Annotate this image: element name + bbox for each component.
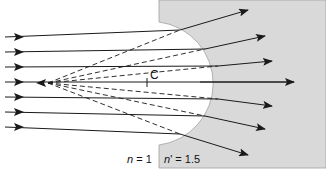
optics-diagram (0, 0, 326, 173)
n-value: = 1 (133, 153, 152, 165)
n-prime-value: = 1.5 (172, 153, 200, 165)
glass-medium (159, 0, 326, 168)
medium-right-label: n' = 1.5 (164, 153, 200, 165)
center-label: C (150, 68, 159, 82)
medium-left-label: n = 1 (127, 153, 152, 165)
